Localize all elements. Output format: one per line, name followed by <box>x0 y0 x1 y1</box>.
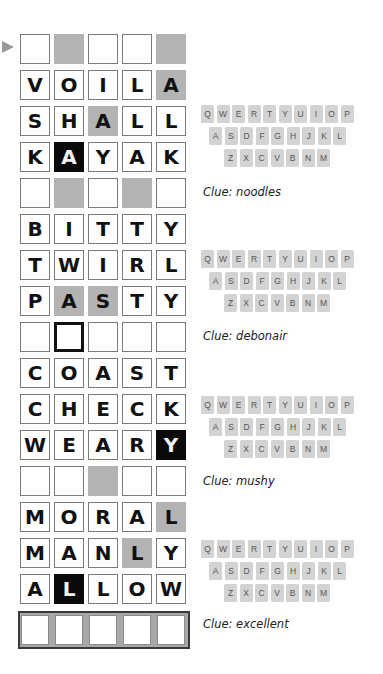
grid-cell[interactable]: C <box>122 394 152 424</box>
grid-cell[interactable] <box>88 178 118 208</box>
grid-cell[interactable]: R <box>122 430 152 460</box>
grid-cell[interactable]: N <box>88 538 118 568</box>
grid-cell[interactable]: I <box>88 70 118 100</box>
grid-cell[interactable]: L <box>54 574 84 604</box>
grid-cell[interactable]: V <box>20 70 50 100</box>
grid-cell[interactable]: Y <box>156 214 186 244</box>
grid-cell[interactable]: Y <box>156 538 186 568</box>
key-z[interactable]: Z <box>224 149 237 167</box>
key-b[interactable]: B <box>286 294 299 312</box>
grid-cell[interactable] <box>54 178 84 208</box>
key-j[interactable]: J <box>302 127 315 145</box>
key-l[interactable]: L <box>333 127 346 145</box>
grid-cell[interactable]: M <box>20 538 50 568</box>
grid-cell[interactable]: A <box>20 574 50 604</box>
key-n[interactable]: N <box>302 149 315 167</box>
grid-cell[interactable]: H <box>54 394 84 424</box>
grid-cell[interactable]: A <box>122 502 152 532</box>
grid-cell[interactable] <box>20 178 50 208</box>
grid-cell[interactable] <box>54 466 84 496</box>
grid-cell[interactable]: L <box>88 574 118 604</box>
key-f[interactable]: F <box>256 562 269 580</box>
key-y[interactable]: Y <box>279 396 292 414</box>
key-h[interactable]: H <box>287 562 300 580</box>
grid-cell[interactable] <box>156 34 186 64</box>
grid-cell[interactable] <box>122 178 152 208</box>
key-q[interactable]: Q <box>201 105 214 123</box>
key-m[interactable]: M <box>317 149 330 167</box>
grid-cell[interactable] <box>122 34 152 64</box>
grid-cell[interactable]: L <box>156 502 186 532</box>
final-cell[interactable] <box>123 615 151 645</box>
key-s[interactable]: S <box>225 562 238 580</box>
grid-cell[interactable]: L <box>122 538 152 568</box>
key-b[interactable]: B <box>286 149 299 167</box>
key-x[interactable]: X <box>240 440 253 458</box>
key-v[interactable]: V <box>271 584 284 602</box>
key-r[interactable]: R <box>248 250 261 268</box>
grid-cell[interactable]: S <box>122 358 152 388</box>
key-i[interactable]: I <box>310 105 323 123</box>
key-z[interactable]: Z <box>224 294 237 312</box>
key-b[interactable]: B <box>286 440 299 458</box>
key-o[interactable]: O <box>325 396 338 414</box>
grid-cell[interactable]: Y <box>156 430 186 460</box>
grid-cell[interactable]: O <box>122 574 152 604</box>
key-r[interactable]: R <box>248 396 261 414</box>
key-g[interactable]: G <box>271 418 284 436</box>
grid-cell[interactable] <box>156 322 186 352</box>
key-a[interactable]: A <box>209 418 222 436</box>
grid-cell[interactable]: B <box>20 214 50 244</box>
key-g[interactable]: G <box>271 127 284 145</box>
key-c[interactable]: C <box>255 149 268 167</box>
key-d[interactable]: D <box>240 272 253 290</box>
key-t[interactable]: T <box>263 250 276 268</box>
key-w[interactable]: W <box>217 250 230 268</box>
grid-cell[interactable]: I <box>88 250 118 280</box>
final-cell[interactable] <box>21 615 49 645</box>
grid-cell[interactable]: W <box>20 430 50 460</box>
key-z[interactable]: Z <box>224 584 237 602</box>
key-c[interactable]: C <box>255 294 268 312</box>
key-t[interactable]: T <box>263 396 276 414</box>
key-o[interactable]: O <box>325 250 338 268</box>
key-m[interactable]: M <box>317 440 330 458</box>
key-y[interactable]: Y <box>279 105 292 123</box>
key-f[interactable]: F <box>256 418 269 436</box>
grid-cell[interactable]: K <box>156 142 186 172</box>
key-o[interactable]: O <box>325 540 338 558</box>
grid-cell[interactable]: T <box>88 214 118 244</box>
grid-cell[interactable] <box>54 322 84 352</box>
grid-cell[interactable] <box>156 466 186 496</box>
key-p[interactable]: P <box>341 250 354 268</box>
key-g[interactable]: G <box>271 272 284 290</box>
key-t[interactable]: T <box>263 105 276 123</box>
key-j[interactable]: J <box>302 562 315 580</box>
key-q[interactable]: Q <box>201 540 214 558</box>
grid-cell[interactable]: S <box>20 106 50 136</box>
grid-cell[interactable] <box>54 34 84 64</box>
key-e[interactable]: E <box>232 250 245 268</box>
key-s[interactable]: S <box>225 127 238 145</box>
key-n[interactable]: N <box>302 440 315 458</box>
key-w[interactable]: W <box>217 105 230 123</box>
grid-cell[interactable]: A <box>122 142 152 172</box>
grid-cell[interactable]: R <box>88 502 118 532</box>
final-answer-row[interactable] <box>18 611 190 649</box>
grid-cell[interactable]: S <box>88 286 118 316</box>
key-u[interactable]: U <box>294 105 307 123</box>
grid-cell[interactable] <box>20 34 50 64</box>
key-h[interactable]: H <box>287 272 300 290</box>
key-p[interactable]: P <box>341 105 354 123</box>
key-v[interactable]: V <box>271 294 284 312</box>
grid-cell[interactable]: Y <box>88 142 118 172</box>
key-u[interactable]: U <box>294 250 307 268</box>
key-i[interactable]: I <box>310 540 323 558</box>
grid-cell[interactable]: O <box>54 502 84 532</box>
key-h[interactable]: H <box>287 418 300 436</box>
grid-cell[interactable]: K <box>156 394 186 424</box>
key-e[interactable]: E <box>232 105 245 123</box>
grid-cell[interactable]: E <box>88 394 118 424</box>
grid-cell[interactable] <box>122 322 152 352</box>
key-s[interactable]: S <box>225 272 238 290</box>
